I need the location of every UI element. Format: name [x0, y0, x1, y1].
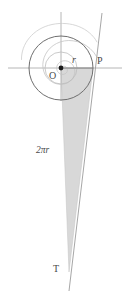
spiral-rectification-figure: O r P 2πr T: [0, 0, 129, 296]
label-apex-t: T: [53, 264, 59, 274]
rectification-triangle: [61, 68, 93, 272]
label-center-o: O: [49, 71, 56, 81]
figure-canvas: [0, 0, 129, 296]
center-point-dot: [59, 66, 64, 71]
label-circumference-2pir: 2πr: [36, 146, 49, 156]
label-point-p: P: [97, 56, 103, 66]
label-radius-r: r: [72, 55, 76, 65]
spiral-outer-arc: [21, 23, 97, 59]
